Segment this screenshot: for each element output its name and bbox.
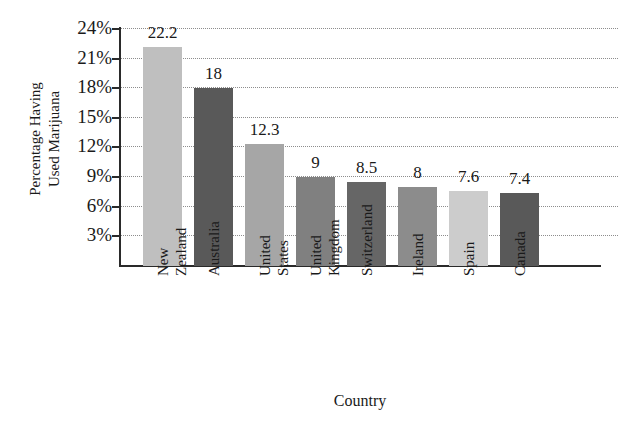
x-axis-category-label: New Zealand [154, 172, 190, 276]
x-axis-category-label: Australia [205, 172, 223, 276]
x-axis-category-label: Canada [511, 172, 529, 276]
y-axis-tick-mark [112, 117, 121, 119]
y-axis-tick-mark [112, 87, 121, 89]
gridline [121, 58, 618, 59]
x-axis-category-label: Spain [460, 172, 478, 276]
y-axis-tick-mark [112, 235, 121, 237]
x-axis-title: Country [119, 392, 601, 410]
y-axis-tick-mark [112, 28, 121, 30]
x-axis-category-label: Ireland [409, 172, 427, 276]
x-axis-category-label: Switzerland [358, 172, 376, 276]
bar-chart: Percentage Having Used Marijuana 24%21%1… [0, 0, 621, 430]
bar-value-label: 22.2 [130, 24, 195, 41]
plot-area: 22.2New Zealand18Australia12.3United Sta… [0, 0, 621, 430]
bar-value-label: 12.3 [232, 121, 297, 138]
x-axis-category-label: United Kingdom [307, 172, 343, 276]
y-axis-tick-mark [112, 58, 121, 60]
y-axis-tick-mark [112, 146, 121, 148]
bar-value-label: 18 [181, 65, 246, 82]
y-axis-tick-mark [112, 206, 121, 208]
x-axis-category-label: United States [256, 172, 292, 276]
y-axis-tick-mark [112, 176, 121, 178]
gridline [121, 28, 618, 29]
